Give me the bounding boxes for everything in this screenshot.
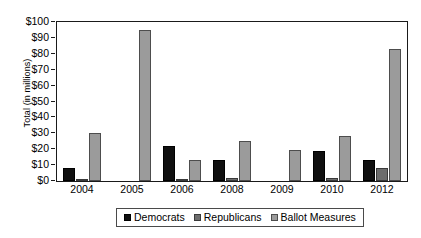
legend-swatch-icon [124, 214, 131, 221]
plot-area [56, 21, 408, 182]
bar-chart: Total (in millions) $0$10$20$30$40$50$60… [0, 0, 421, 238]
bar-democrats-2004 [63, 168, 75, 182]
x-axis-tick-label-2012: 2012 [370, 184, 393, 195]
y-axis-tick-label: $90 [31, 32, 49, 43]
y-axis-tick-label: $40 [31, 111, 49, 122]
bar-republicans-2010 [326, 178, 338, 181]
y-axis-tick-label: $30 [31, 127, 49, 138]
y-axis-tick-label: $50 [31, 95, 49, 106]
x-axis-tick-label-2009: 2009 [270, 184, 293, 195]
bar-republicans-2004 [76, 179, 88, 181]
bar-democrats-2006 [163, 146, 175, 181]
y-axis-tick-mark [51, 116, 55, 117]
legend-item-republicans[interactable]: Republicans [194, 212, 262, 223]
y-axis-tick-mark [51, 101, 55, 102]
bar-ballot-measures-2009 [289, 150, 301, 181]
y-axis-tick-label: $60 [31, 79, 49, 90]
chart-legend: DemocratsRepublicansBallot Measures [116, 208, 364, 227]
legend-swatch-icon [271, 214, 278, 221]
y-axis-tick-mark [51, 132, 55, 133]
y-axis-tick-label: $70 [31, 63, 49, 74]
y-axis-tick-labels: $0$10$20$30$40$50$60$70$80$90$100 [0, 21, 52, 182]
bar-ballot-measures-2010 [339, 136, 351, 181]
y-axis-tick-mark [51, 37, 55, 38]
bar-ballot-measures-2005 [139, 30, 151, 181]
bar-ballot-measures-2004 [89, 133, 101, 181]
y-axis-tick-mark [51, 164, 55, 165]
bar-democrats-2008 [213, 160, 225, 181]
x-axis-tick-label-2008: 2008 [220, 184, 243, 195]
legend-item-ballot-measures[interactable]: Ballot Measures [271, 212, 356, 223]
legend-label: Republicans [204, 212, 262, 223]
y-axis-tick-label: $100 [26, 16, 49, 27]
x-axis-tick-label-2010: 2010 [320, 184, 343, 195]
bar-ballot-measures-2012 [389, 49, 401, 181]
y-axis-tick-label: $0 [37, 175, 49, 186]
y-axis-tick-mark [51, 53, 55, 54]
legend-swatch-icon [194, 214, 201, 221]
y-axis-tick-label: $80 [31, 48, 49, 59]
y-axis-tick-mark [51, 148, 55, 149]
bar-ballot-measures-2006 [189, 160, 201, 181]
x-axis-tick-label-2006: 2006 [170, 184, 193, 195]
y-axis-tick-label: $10 [31, 159, 49, 170]
bar-ballot-measures-2008 [239, 141, 251, 181]
x-axis-tick-labels: 2004200520062008200920102012 [57, 184, 407, 200]
y-axis-tick-mark [51, 21, 55, 22]
x-axis-tick-label-2004: 2004 [70, 184, 93, 195]
bar-democrats-2012 [363, 160, 375, 181]
y-axis-tick-mark [51, 69, 55, 70]
x-axis-tick-label-2005: 2005 [120, 184, 143, 195]
legend-label: Democrats [134, 212, 185, 223]
bar-republicans-2012 [376, 168, 388, 181]
bars-layer [57, 22, 407, 181]
y-axis-tick-mark [51, 180, 55, 181]
y-axis-tick-mark [51, 85, 55, 86]
legend-item-democrats[interactable]: Democrats [124, 212, 185, 223]
y-axis-tick-label: $20 [31, 143, 49, 154]
bar-republicans-2008 [226, 178, 238, 181]
bar-republicans-2006 [176, 179, 188, 181]
bar-democrats-2010 [313, 151, 325, 181]
legend-label: Ballot Measures [281, 212, 356, 223]
